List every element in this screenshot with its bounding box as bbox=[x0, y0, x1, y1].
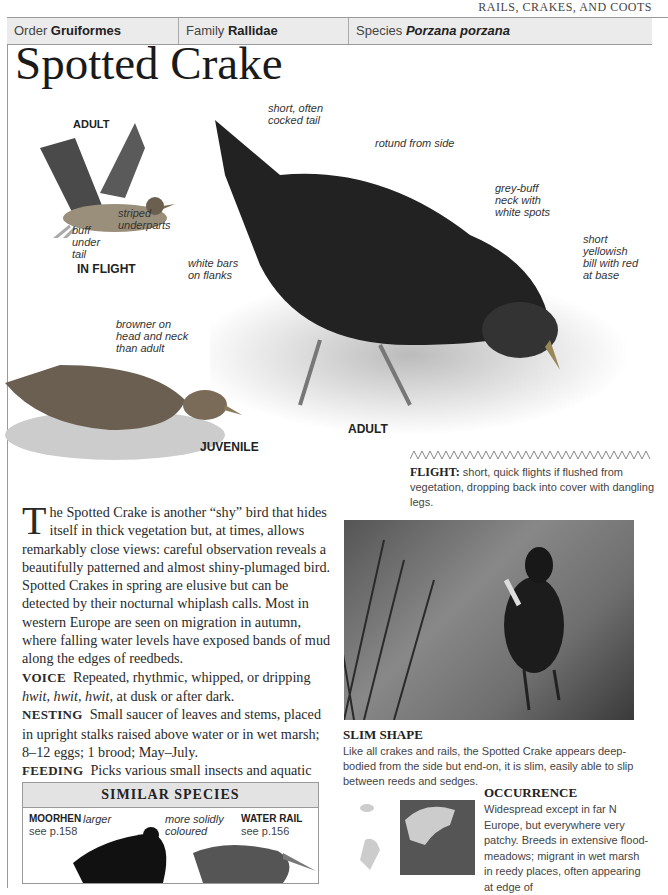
label-striped-underparts: striped underparts bbox=[118, 207, 188, 231]
page-title: Spotted Crake bbox=[15, 36, 283, 90]
slim-shape-photo bbox=[344, 520, 634, 720]
species-value: Porzana porzana bbox=[406, 23, 510, 38]
slim-shape-title: SLIM SHAPE bbox=[343, 727, 423, 743]
slim-shape-text: Like all crakes and rails, the Spotted C… bbox=[343, 744, 643, 789]
similar-species-box: SIMILAR SPECIES MOORHEN see p.158 larger… bbox=[22, 782, 319, 884]
label-grey-buff-neck: grey-buff neck with white spots bbox=[495, 182, 555, 218]
water-rail-name: WATER RAIL bbox=[241, 813, 302, 824]
flight-adult-label: ADULT bbox=[73, 118, 109, 130]
species-label: Species bbox=[356, 23, 402, 38]
flight-label: FLIGHT: bbox=[410, 465, 460, 479]
taxonomy-species: Species Porzana porzana bbox=[349, 18, 652, 44]
moorhen-illustration bbox=[63, 823, 173, 883]
occurrence-text: Widespread except in far N Europe, but e… bbox=[484, 802, 649, 895]
feeding-label: FEEDING bbox=[22, 763, 83, 778]
adult-caption: ADULT bbox=[348, 422, 388, 436]
similar-species-heading: SIMILAR SPECIES bbox=[23, 783, 318, 808]
voice-text-end: at dusk or after dark. bbox=[117, 688, 235, 704]
running-head: RAILS, CRAKES, AND COOTS bbox=[478, 0, 652, 15]
label-short-cocked-tail: short, often cocked tail bbox=[268, 102, 348, 126]
label-yellowish-bill: short yellowish bill with red at base bbox=[583, 233, 643, 281]
occurrence-title: OCCURRENCE bbox=[484, 785, 577, 801]
flight-pattern-zigzag-icon bbox=[410, 449, 652, 461]
adult-bird-illustration bbox=[210, 115, 640, 435]
label-white-bars-flanks: white bars on flanks bbox=[188, 257, 248, 281]
intro-text: he Spotted Crake is another “shy” bird t… bbox=[22, 504, 330, 666]
label-rotund-from-side: rotund from side bbox=[375, 137, 475, 149]
crake-rear-view-photo bbox=[344, 520, 634, 720]
voice-label: VOICE bbox=[22, 670, 66, 685]
voice-call: hwit, hwit, hwit, bbox=[22, 688, 113, 704]
drop-cap: T bbox=[22, 505, 46, 537]
in-flight-caption: IN FLIGHT bbox=[77, 262, 136, 276]
juvenile-caption: JUVENILE bbox=[200, 440, 259, 454]
water-rail-illustration bbox=[188, 833, 318, 883]
nesting-label: NESTING bbox=[22, 707, 83, 722]
flight-description: FLIGHT: short, quick flights if flushed … bbox=[410, 465, 655, 510]
voice-text: Repeated, rhythmic, whipped, or dripping bbox=[73, 669, 311, 685]
label-browner-head-neck: browner on head and neck than adult bbox=[116, 318, 196, 354]
species-description: The Spotted Crake is another “shy” bird … bbox=[22, 503, 334, 799]
label-buff-under-tail: buff under tail bbox=[72, 224, 112, 260]
distribution-map bbox=[355, 800, 475, 875]
